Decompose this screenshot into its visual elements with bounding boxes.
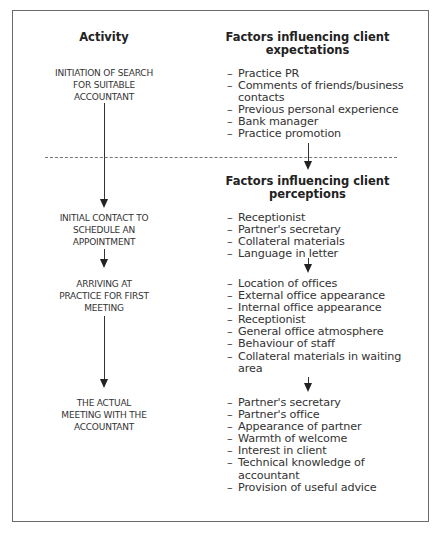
activity-line: SCHEDULE AN [39, 224, 169, 236]
activity-line: MEETING [39, 302, 169, 314]
factor-text: Warmth of welcome [238, 432, 347, 445]
factor-text: Collateral materials [238, 235, 345, 248]
list-item: –Practice promotion [227, 128, 407, 140]
activity-initiation-of-search: INITIATION OF SEARCH FOR SUITABLE ACCOUN… [39, 67, 169, 103]
factor-text: Receptionist [238, 313, 305, 326]
activity-line: MEETING WITH THE [39, 409, 169, 421]
factor-text: Practice PR [238, 67, 299, 80]
list-item: –Language in letter [227, 248, 407, 260]
factor-text: Previous personal experience [238, 103, 399, 116]
activity-line: ACCOUNTANT [39, 421, 169, 433]
flow-line [104, 316, 105, 381]
factor-text: Appearance of partner [238, 420, 361, 433]
activity-arriving-at-practice: ARRIVING AT PRACTICE FOR FIRST MEETING [39, 278, 169, 314]
arrow-down-icon [304, 161, 312, 170]
perception-factors-arriving: –Location of offices –External office ap… [227, 278, 407, 375]
arrow-down-icon [100, 379, 108, 388]
activity-initial-contact: INITIAL CONTACT TO SCHEDULE AN APPOINTME… [39, 212, 169, 248]
factor-text: Provision of useful advice [238, 481, 377, 494]
perceptions-header: Factors influencing client perceptions [220, 175, 395, 201]
perceptions-header-line2: perceptions [220, 188, 395, 201]
dash-bullet: – [227, 457, 238, 469]
activity-line: FOR SUITABLE [39, 79, 169, 91]
activity-header: Activity [54, 31, 154, 44]
list-item: –Collateral materials in waiting area [227, 351, 407, 375]
perception-factors-meeting: –Partner's secretary –Partner's office –… [227, 397, 407, 494]
arrow-down-icon [100, 259, 108, 268]
factor-text: External office appearance [238, 289, 385, 302]
expectations-perceptions-divider [45, 157, 397, 158]
factor-text: Partner's office [238, 408, 320, 421]
activity-actual-meeting: THE ACTUAL MEETING WITH THE ACCOUNTANT [39, 397, 169, 433]
factor-text: Internal office appearance [238, 301, 382, 314]
expectation-factors-list: –Practice PR –Comments of friends/busine… [227, 68, 407, 141]
activity-line: INITIATION OF SEARCH [39, 67, 169, 79]
dash-bullet: – [227, 128, 238, 140]
activity-line: ACCOUNTANT [39, 91, 169, 103]
dash-bullet: – [227, 482, 238, 494]
factor-text: Interest in client [238, 444, 326, 457]
factor-text: Partner's secretary [238, 223, 341, 236]
dash-bullet: – [227, 338, 238, 350]
factor-text: Location of offices [238, 277, 337, 290]
activity-line: PRACTICE FOR FIRST [39, 290, 169, 302]
dash-bullet: – [227, 248, 238, 260]
expectations-header: Factors influencing client expectations [220, 31, 395, 57]
activity-line: INITIAL CONTACT TO [39, 212, 169, 224]
perception-factors-initial-contact: –Receptionist –Partner's secretary –Coll… [227, 212, 407, 260]
factor-text: Bank manager [238, 115, 318, 128]
expectations-header-line2: expectations [220, 44, 395, 57]
flow-line [104, 103, 105, 201]
activity-line: THE ACTUAL [39, 397, 169, 409]
activity-line: ARRIVING AT [39, 278, 169, 290]
dash-bullet: – [227, 351, 238, 363]
factor-text: Collateral materials in waiting area [238, 350, 401, 375]
factor-text: Technical knowledge of accountant [238, 456, 365, 481]
arrow-down-icon [100, 199, 108, 208]
flow-line [308, 143, 309, 163]
dash-bullet: – [227, 80, 238, 92]
list-item: –Provision of useful advice [227, 482, 407, 494]
factor-text: Language in letter [238, 247, 338, 260]
factor-text: General office atmosphere [238, 325, 383, 338]
arrow-down-icon [304, 264, 312, 273]
list-item: –Technical knowledge of accountant [227, 457, 407, 481]
arrow-down-icon [304, 383, 312, 392]
factor-text: Receptionist [238, 211, 305, 224]
factor-text: Partner's secretary [238, 396, 341, 409]
activity-line: APPOINTMENT [39, 236, 169, 248]
factor-text: Practice promotion [238, 127, 341, 140]
list-item: –Comments of friends/business contacts [227, 80, 407, 104]
factor-text: Behaviour of staff [238, 337, 335, 350]
factor-text: Comments of friends/business contacts [238, 79, 403, 104]
